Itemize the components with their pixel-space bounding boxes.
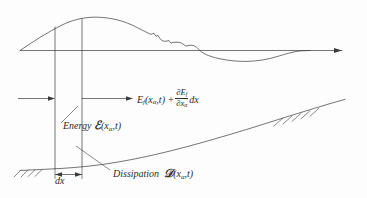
axis-arrowhead	[334, 48, 342, 53]
energy-label: Energy ℰ(xα,t)	[63, 120, 121, 132]
dissipation-label: Dissipation 𝒟(xα,t)	[113, 168, 193, 180]
dx-label: dx	[55, 176, 64, 186]
dissipation-args-open: (x	[173, 168, 181, 179]
energy-symbol: ℰ	[94, 118, 101, 132]
free-surface-wave-profile	[20, 17, 310, 61]
fraction-denominator: ∂xα	[175, 99, 188, 109]
numerator-subscript: f	[186, 91, 188, 97]
dissipation-word: Dissipation	[113, 168, 159, 179]
flux-dx-tail: dx	[189, 94, 198, 105]
numerator-text: ∂E	[176, 87, 186, 97]
energy-word: Energy	[63, 120, 92, 131]
flux-args-close: ,t) +	[156, 94, 174, 105]
dissipation-args-close: ,t)	[184, 168, 193, 179]
partial-derivative-fraction: ∂Ef∂xα	[175, 88, 188, 109]
dissipation-symbol: 𝒟	[164, 166, 173, 180]
energy-args-open: (x	[101, 120, 109, 131]
sloping-seabed-profile	[20, 99, 345, 170]
dissipation-leader-line	[76, 146, 110, 170]
energy-flux-expression: Ef(xα,t) +∂Ef∂xαdx	[137, 88, 199, 109]
outgoing-energy-flux-arrow	[82, 96, 133, 101]
energy-args-close: ,t)	[112, 120, 121, 131]
denominator-subscript: α	[184, 103, 187, 109]
incoming-energy-flux-arrow	[18, 96, 55, 101]
wave-energy-flux-diagram: Ef(xα,t) +∂Ef∂xαdx Energy ℰ(xα,t) Dissip…	[0, 0, 367, 198]
flux-args-open: (x	[145, 94, 153, 105]
